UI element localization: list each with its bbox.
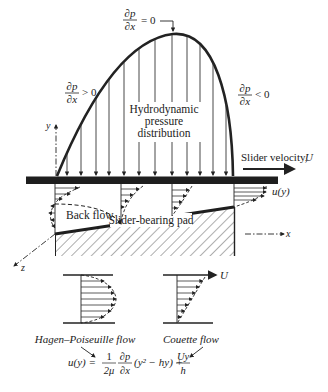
svg-text:∂x: ∂x [240,95,250,107]
couette-diagram: U [163,269,229,323]
svg-text:z: z [20,262,25,273]
svg-text:(y² − hy) +: (y² − hy) + [134,356,183,369]
label-back-flow: Back flow [66,209,114,221]
y-axis: y [45,120,56,176]
label-slider-velocity: Slider velocity, U [241,151,314,169]
label-couette-flow: Couette flow [163,333,220,345]
x-axis: x [245,228,291,239]
svg-text:U: U [220,269,229,281]
svg-text:∂p: ∂p [120,351,130,362]
svg-text:distribution: distribution [137,127,190,139]
svg-text:∂x: ∂x [67,93,77,105]
hagen-poiseuille-diagram [63,275,116,323]
svg-text:∂x: ∂x [125,20,135,32]
svg-text:h: h [180,365,185,376]
svg-text:y: y [45,120,51,131]
svg-text:∂p: ∂p [240,82,251,94]
slider-bar [26,177,278,185]
svg-text:Uy: Uy [177,351,190,362]
svg-text:∂p: ∂p [125,7,136,19]
velocity-equation: u(y) = 1 2μ ∂p ∂x (y² − hy) + Uy h [68,351,190,376]
svg-text:> 0: > 0 [82,86,97,98]
label-dpdx-negative: ∂p ∂x < 0 [238,82,270,107]
svg-text:∂x: ∂x [120,365,130,376]
svg-text:= 0: = 0 [141,14,156,26]
couette-pointer [190,347,203,357]
slider-bearing-diagram: ∂p ∂x = 0 ∂p ∂x > 0 ∂p ∂x < 0 Hydrodynam… [0,0,328,392]
svg-text:x: x [285,228,291,239]
svg-text:U: U [305,151,314,163]
svg-text:< 0: < 0 [255,88,270,100]
z-axis: z [14,234,55,273]
svg-text:u(y) =: u(y) = [68,356,96,369]
label-pressure-distribution: Hydrodynamic pressure distribution [130,103,199,139]
svg-text:Slider velocity,: Slider velocity, [241,151,308,163]
svg-text:∂p: ∂p [67,80,78,92]
svg-text:1: 1 [106,351,111,362]
label-u-of-y: u(y) [272,185,290,198]
svg-text:2μ: 2μ [104,365,115,376]
label-hp-flow: Hagen–Poiseuille flow [34,333,136,345]
label-dpdx-zero: ∂p ∂x = 0 [123,7,173,32]
label-dpdx-positive: ∂p ∂x > 0 [65,80,97,105]
